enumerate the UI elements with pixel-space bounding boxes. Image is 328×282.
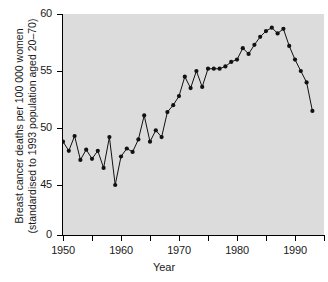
x-axis-tick bbox=[92, 236, 93, 241]
chart-figure: 045505560 19501960197019801990 Breast ca… bbox=[0, 0, 328, 282]
data-point bbox=[165, 110, 169, 114]
data-point bbox=[310, 109, 314, 113]
data-point bbox=[229, 60, 233, 64]
y-axis-tick bbox=[57, 128, 62, 129]
data-point bbox=[276, 31, 280, 35]
data-point bbox=[212, 67, 216, 71]
data-point bbox=[281, 27, 285, 31]
data-point bbox=[218, 67, 222, 71]
data-point bbox=[160, 135, 164, 139]
y-axis-line bbox=[62, 14, 63, 236]
plot-panel bbox=[63, 14, 324, 235]
data-point bbox=[148, 140, 152, 144]
x-axis-tick bbox=[295, 236, 296, 241]
data-point bbox=[73, 134, 77, 138]
data-point bbox=[78, 158, 82, 162]
x-axis-tick bbox=[324, 236, 325, 241]
data-point bbox=[107, 135, 111, 139]
x-axis-tick bbox=[237, 236, 238, 241]
data-point bbox=[63, 140, 65, 144]
x-axis-tick bbox=[266, 236, 267, 241]
data-point bbox=[200, 85, 204, 89]
data-point bbox=[177, 94, 181, 98]
x-axis-tick bbox=[150, 236, 151, 241]
x-axis-tick bbox=[63, 236, 64, 241]
x-axis-tick bbox=[121, 236, 122, 241]
data-point bbox=[235, 58, 239, 62]
data-point bbox=[119, 154, 123, 158]
y-axis-title-line-1: Breast cancer deaths per 100 000 women bbox=[13, 6, 26, 246]
data-point bbox=[84, 148, 88, 152]
data-point bbox=[125, 146, 129, 150]
x-axis-line bbox=[62, 235, 325, 236]
y-axis-tick bbox=[57, 71, 62, 72]
data-point bbox=[183, 75, 187, 79]
series-line bbox=[63, 28, 312, 185]
x-axis-tick-label: 1980 bbox=[217, 244, 257, 256]
x-axis-tick-label: 1990 bbox=[275, 244, 315, 256]
data-point bbox=[258, 35, 262, 39]
data-point bbox=[131, 150, 135, 154]
data-point bbox=[96, 149, 100, 153]
y-axis-tick bbox=[57, 185, 62, 186]
data-point bbox=[113, 183, 117, 187]
data-point bbox=[299, 69, 303, 73]
data-point bbox=[90, 157, 94, 161]
data-point bbox=[264, 29, 268, 33]
data-point bbox=[171, 103, 175, 107]
x-axis-tick-label: 1960 bbox=[101, 244, 141, 256]
data-point bbox=[293, 58, 297, 62]
y-axis-title: Breast cancer deaths per 100 000 women (… bbox=[13, 6, 39, 246]
x-axis-tick bbox=[208, 236, 209, 241]
x-axis-tick-label: 1970 bbox=[159, 244, 199, 256]
x-axis-tick-label: 1950 bbox=[43, 244, 83, 256]
data-point bbox=[305, 80, 309, 84]
data-point bbox=[223, 64, 227, 68]
data-point bbox=[67, 149, 71, 153]
data-point bbox=[154, 128, 158, 132]
data-point bbox=[247, 52, 251, 56]
data-point bbox=[241, 46, 245, 50]
data-point bbox=[206, 67, 210, 71]
x-axis-tick bbox=[179, 236, 180, 241]
data-point bbox=[287, 44, 291, 48]
data-point bbox=[102, 166, 106, 170]
data-point bbox=[136, 137, 140, 141]
y-axis-tick bbox=[57, 14, 62, 15]
y-axis-title-line-2: (standardised to 1993 population aged 20… bbox=[26, 6, 39, 246]
data-point bbox=[270, 26, 274, 30]
x-axis-title: Year bbox=[0, 261, 328, 273]
data-point bbox=[252, 43, 256, 47]
data-point bbox=[142, 113, 146, 117]
y-axis-tick bbox=[57, 235, 62, 236]
data-series-breast-cancer-deaths bbox=[63, 14, 324, 235]
data-point bbox=[194, 69, 198, 73]
data-point bbox=[189, 86, 193, 90]
